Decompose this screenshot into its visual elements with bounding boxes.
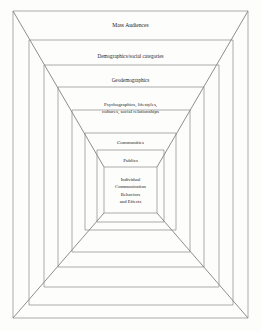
band-label-publics: Publics	[123, 158, 138, 163]
band-label-communities: Communities	[117, 140, 144, 145]
band-label-psychographics: Psychographics, lifestyles,cultures, soc…	[102, 102, 159, 115]
band-label-individual-effects: IndividualCommunicationBehaviorsand Effe…	[115, 177, 147, 204]
band-label-psychographics-line-1: cultures, social relationships	[102, 109, 159, 115]
band-label-geodemographics: Geodemographics	[112, 77, 150, 83]
nested-rectangle-level-2	[44, 65, 219, 287]
perspective-diagram: Mass AudiencesDemographics/social catego…	[0, 0, 261, 331]
band-label-individual-effects-line-0: Individual	[121, 177, 141, 182]
nested-rectangle-level-7	[104, 167, 157, 213]
band-label-individual-effects-line-1: Communication	[115, 184, 147, 189]
band-label-communities-line-0: Communities	[117, 140, 144, 145]
band-label-demographics-line-0: Demographics/social categories	[97, 53, 163, 59]
band-label-publics-line-0: Publics	[123, 158, 138, 163]
diagonal-bottom-left	[13, 213, 104, 318]
band-label-individual-effects-line-3: and Effects	[120, 199, 142, 204]
nested-rectangles-figure: Mass AudiencesDemographics/social catego…	[0, 0, 261, 331]
band-label-psychographics-line-0: Psychographics, lifestyles,	[104, 102, 157, 108]
band-label-mass-audiences: Mass Audiences	[112, 22, 149, 28]
band-label-demographics: Demographics/social categories	[97, 53, 163, 59]
diagonal-top-left	[13, 11, 104, 167]
diagonal-top-right	[157, 11, 248, 167]
band-labels-group: Mass AudiencesDemographics/social catego…	[97, 22, 163, 204]
band-label-individual-effects-line-2: Behaviors	[121, 192, 141, 197]
diagonal-bottom-right	[157, 213, 248, 318]
band-label-geodemographics-line-0: Geodemographics	[112, 77, 150, 83]
band-label-mass-audiences-line-0: Mass Audiences	[112, 22, 149, 28]
